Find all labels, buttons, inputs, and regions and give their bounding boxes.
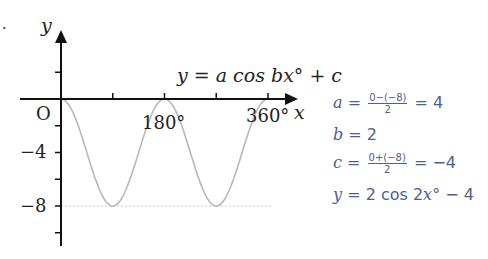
chart-title-equation: y = a cos bx° + c — [177, 64, 342, 86]
x-tick-label-360: 360° — [246, 105, 289, 126]
fraction-a: 0−(−8) 2 — [368, 92, 407, 115]
solution-line-c: c = 0+(−8) 2 = −4 — [333, 152, 456, 175]
y-tick-label-neg8: −8 — [20, 195, 47, 216]
solution-line-y: y = 2 cos 2x° − 4 — [333, 185, 474, 204]
x-axis-label: x — [294, 101, 305, 123]
cosine-graph — [0, 0, 488, 259]
x-tick-label-180: 180° — [142, 112, 185, 133]
y-axis-arrow-icon — [55, 30, 67, 43]
solution-line-a: a = 0−(−8) 2 = 4 — [333, 92, 443, 115]
solution-line-b: b = 2 — [333, 125, 377, 144]
fraction-c: 0+(−8) 2 — [368, 152, 407, 175]
origin-label: O — [36, 103, 51, 124]
y-tick-label-neg4: −4 — [20, 141, 47, 162]
y-axis-label: y — [41, 14, 52, 36]
